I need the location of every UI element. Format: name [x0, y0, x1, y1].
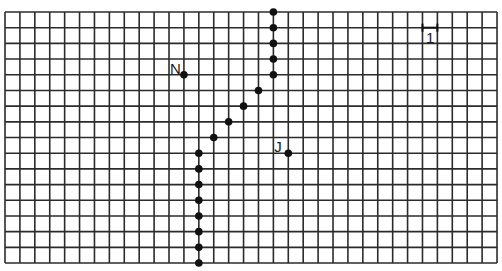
path-dot	[270, 8, 278, 16]
path-dot	[225, 118, 233, 126]
point-n: N	[170, 60, 188, 79]
path-dot	[270, 55, 278, 63]
grid-diagram: NJ 1	[0, 0, 502, 271]
path-dot	[210, 134, 218, 142]
path-dot	[195, 181, 203, 189]
path-dot	[195, 196, 203, 204]
path-dot	[195, 244, 203, 252]
path-dot	[240, 102, 248, 110]
path-dot	[195, 228, 203, 236]
path-dot	[270, 71, 278, 79]
path-dot	[195, 165, 203, 173]
point-j: J	[274, 138, 292, 157]
path-dot	[255, 87, 263, 95]
point-dot	[284, 149, 292, 157]
grid-canvas: NJ 1	[0, 0, 502, 271]
path-dot	[270, 40, 278, 48]
scale-marker: 1	[422, 24, 437, 46]
point-label: J	[274, 138, 282, 155]
point-dot	[180, 71, 188, 79]
scale-label: 1	[426, 29, 434, 46]
path-dot	[195, 212, 203, 220]
path-dot	[195, 149, 203, 157]
path-dot	[270, 24, 278, 32]
point-label: N	[170, 60, 181, 77]
grid-lines	[5, 12, 497, 263]
path-dot	[195, 259, 203, 267]
